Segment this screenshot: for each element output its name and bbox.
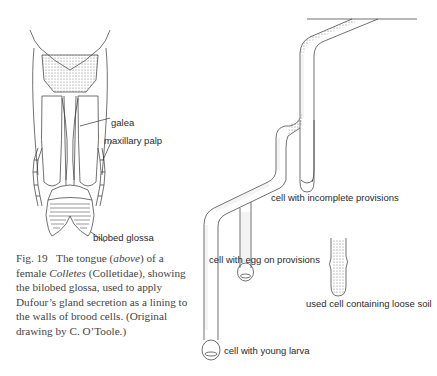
label-cell-incomplete-provisions: cell with incomplete provisions	[271, 193, 399, 203]
caption-lead: The tongue (	[56, 252, 113, 264]
label-maxillary-palp: maxillary palp	[104, 136, 162, 146]
label-cell-young-larva: cell with young larva	[224, 346, 310, 356]
label-cell-egg-on-provisions: cell with egg on provisions	[209, 255, 320, 265]
caption-genus: Colletes	[49, 267, 86, 279]
label-bilobed-glossa: bilobed glossa	[93, 233, 154, 243]
figure-caption: Fig. 19 The tongue (above) of a female C…	[16, 251, 196, 339]
caption-above: above	[113, 252, 140, 264]
label-used-cell-loose-soil: used cell containing loose soil	[306, 299, 432, 309]
tongue-drawing	[30, 30, 112, 242]
label-galea: galea	[111, 118, 134, 128]
figure-number: Fig. 19	[16, 252, 48, 264]
